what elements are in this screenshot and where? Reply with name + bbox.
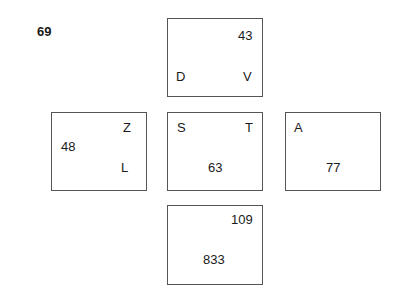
box-left-top-right: Z <box>123 121 131 135</box>
box-bottom-top-right: 109 <box>231 213 253 227</box>
puzzle-number: 69 <box>37 24 51 39</box>
box-bottom-bottom-center: 833 <box>203 253 225 267</box>
box-left: Z 48 L <box>51 112 147 191</box>
box-top-bottom-right: V <box>243 70 252 84</box>
box-center-top-right: T <box>245 121 253 135</box>
box-right-bottom-center: 77 <box>326 161 340 175</box>
box-bottom: 109 833 <box>167 205 263 285</box>
box-top: 43 D V <box>167 18 263 97</box>
box-center: S T 63 <box>167 112 263 191</box>
box-top-bottom-left: D <box>176 70 185 84</box>
box-right: A 77 <box>285 112 381 191</box>
box-top-top-right: 43 <box>238 29 252 43</box>
box-center-bottom-center: 63 <box>208 161 222 175</box>
box-left-bottom-right: L <box>121 161 128 175</box>
box-right-top-left: A <box>294 121 303 135</box>
box-center-top-left: S <box>177 121 186 135</box>
box-left-middle-left: 48 <box>61 140 75 154</box>
